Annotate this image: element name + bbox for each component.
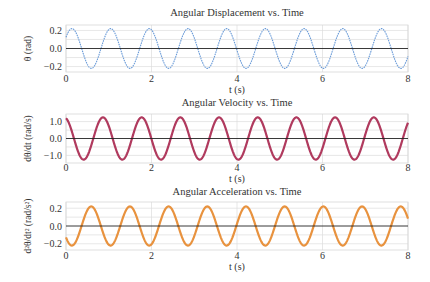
plot-area: 0.20.0−0.202468 [44, 25, 411, 84]
x-tick-label: 2 [149, 250, 154, 261]
chart-title: Angular Acceleration vs. Time [173, 186, 302, 197]
angular-acceleration-panel: 0.20.0−0.202468 Angular Acceleration vs.… [23, 186, 411, 273]
x-tick-label: 2 [149, 73, 154, 84]
x-tick-label: 8 [406, 73, 411, 84]
angular-velocity-panel: 1.00.0−1.002468 Angular Velocity vs. Tim… [23, 97, 411, 185]
y-tick-label: −0.2 [44, 238, 62, 249]
x-tick-label: 0 [64, 73, 69, 84]
chart-title: Angular Velocity vs. Time [182, 97, 293, 108]
x-tick-label: 6 [320, 73, 325, 84]
y-tick-label: −0.2 [44, 61, 62, 72]
chart-canvas: 0.20.0−0.202468 Angular Displacement vs.… [0, 0, 430, 282]
x-axis-label: t (s) [229, 261, 245, 273]
x-tick-label: 6 [320, 250, 325, 261]
plot-area: 0.20.0−0.202468 [44, 202, 411, 261]
angular-displacement-panel: 0.20.0−0.202468 Angular Displacement vs.… [23, 7, 411, 96]
x-tick-label: 4 [235, 250, 240, 261]
x-tick-label: 0 [64, 250, 69, 261]
y-tick-label: −1.0 [44, 150, 62, 161]
x-tick-label: 4 [235, 162, 240, 173]
y-tick-label: 1.0 [50, 116, 63, 127]
x-axis-label: t (s) [229, 84, 245, 96]
x-tick-label: 8 [406, 250, 411, 261]
x-tick-label: 8 [406, 162, 411, 173]
chart-title: Angular Displacement vs. Time [170, 7, 304, 18]
y-tick-label: 0.0 [50, 43, 63, 54]
x-tick-label: 2 [149, 162, 154, 173]
plot-area: 1.00.0−1.002468 [44, 114, 411, 173]
x-tick-label: 0 [64, 162, 69, 173]
y-tick-label: 0.2 [50, 25, 63, 36]
y-axis-label: dθ/dt (rad/s) [23, 115, 34, 162]
y-tick-label: 0.2 [50, 203, 63, 214]
y-axis-label: θ (rad) [23, 36, 34, 61]
x-tick-label: 4 [235, 73, 240, 84]
y-tick-label: 0.0 [50, 133, 63, 144]
y-tick-label: 0.0 [50, 221, 63, 232]
y-axis-label: d²θ/dt² (rad/s²) [23, 198, 34, 253]
x-axis-label: t (s) [229, 173, 245, 185]
x-tick-label: 6 [320, 162, 325, 173]
